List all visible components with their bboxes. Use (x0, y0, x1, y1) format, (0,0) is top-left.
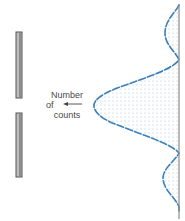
label-line-2: of (44, 100, 90, 110)
intensity-fill (94, 5, 179, 207)
barrier-upper (16, 32, 22, 98)
label-line-3: counts (44, 110, 90, 120)
diffraction-diagram (0, 0, 185, 221)
label-line-1: Number (44, 90, 90, 100)
barrier-lower (16, 113, 22, 177)
number-of-counts-label: Number of counts (44, 90, 90, 120)
